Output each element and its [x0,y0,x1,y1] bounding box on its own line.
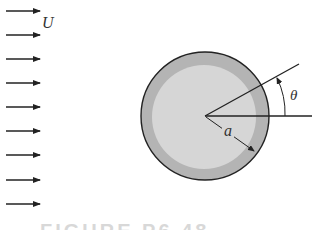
cylinder-flow-diagram: U θ a FIGURE P6.48 [0,0,313,230]
radius-label: a [224,122,232,139]
theta-label: θ [290,87,298,103]
uniform-flow-arrows [6,11,40,204]
theta-arc [277,78,285,116]
cylinder-inner [152,65,256,169]
velocity-label: U [42,14,55,31]
figure-caption: FIGURE P6.48 [40,220,209,230]
